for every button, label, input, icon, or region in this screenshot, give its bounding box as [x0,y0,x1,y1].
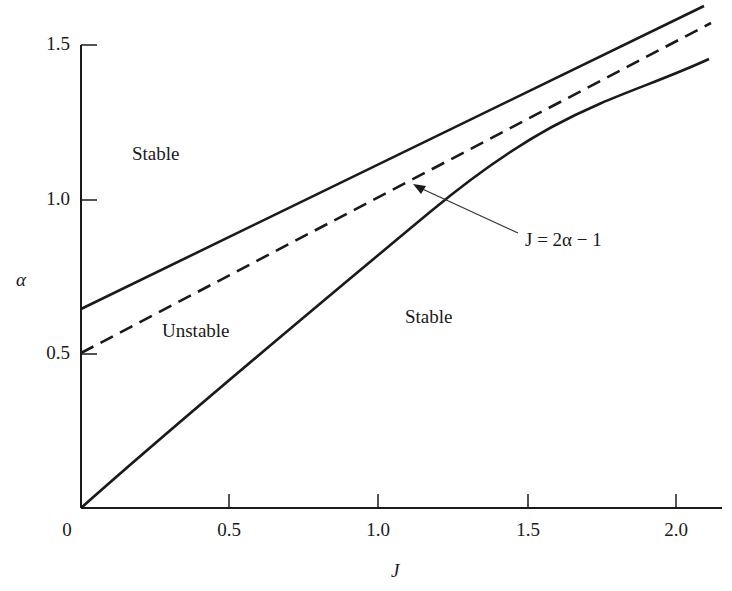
x-tick-label-0: 0 [42,519,92,541]
y-axis-label: α [16,269,26,291]
region-label-stable-lower: Stable [405,306,453,328]
arrowhead-icon [413,184,426,194]
dashed-line-j-equals-2a-minus-1 [81,23,711,353]
equation-label: J = 2α − 1 [525,229,602,250]
y-tick-label-1.5: 1.5 [30,33,70,55]
x-tick-label-2.0: 2.0 [651,519,701,541]
x-tick-label-0.5: 0.5 [204,519,254,541]
region-label-stable-upper: Stable [132,143,180,165]
region-label-unstable: Unstable [162,320,230,342]
stability-plot [0,0,732,591]
x-axis-label: J [391,560,399,582]
equation-annotation: J = 2α − 1 [525,229,602,251]
y-tick-label-0.5: 0.5 [30,342,70,364]
lower-boundary-curve [81,59,709,508]
x-tick-label-1.0: 1.0 [353,519,403,541]
y-tick-label-1.0: 1.0 [30,188,70,210]
x-tick-label-1.5: 1.5 [503,519,553,541]
